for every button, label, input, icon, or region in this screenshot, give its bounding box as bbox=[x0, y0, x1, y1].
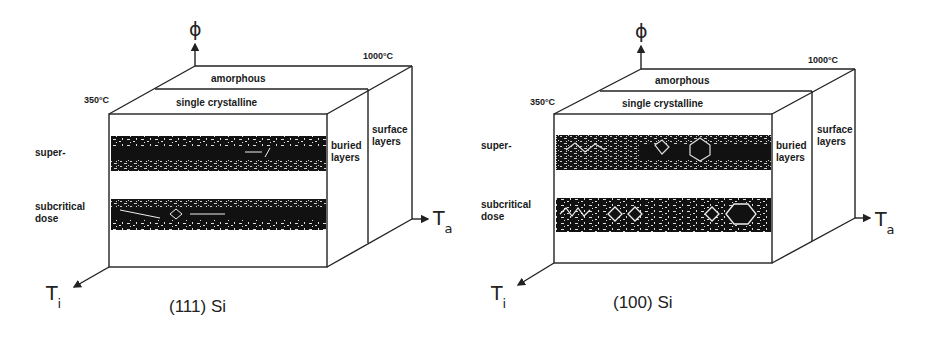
amorphous-label: amorphous bbox=[655, 75, 709, 87]
super-buried-layer bbox=[111, 147, 326, 160]
panel-111-layers bbox=[111, 136, 326, 230]
single-crystalline-label: single crystalline bbox=[176, 97, 257, 109]
surface-layers-label: surfacelayers bbox=[372, 124, 408, 148]
single-crystalline-label: single crystalline bbox=[622, 98, 703, 110]
ti-axis-arrow bbox=[518, 263, 554, 285]
super-label: super- bbox=[481, 140, 512, 152]
super-lower-band bbox=[111, 160, 326, 171]
buried-layers-label: buriedlayers bbox=[776, 140, 807, 164]
temp-high-label: 1000°C bbox=[363, 50, 393, 62]
ti-axis-label: Ti bbox=[46, 282, 61, 304]
temp-low-label: 350°C bbox=[530, 96, 555, 108]
subcritical-dose-label: subcriticaldose bbox=[481, 199, 531, 223]
temp-low-label: 350°C bbox=[84, 94, 109, 106]
ta-axis-label: Ta bbox=[433, 207, 453, 229]
super-label: super- bbox=[35, 147, 66, 159]
caption-100-si: (100) Si bbox=[613, 293, 673, 313]
amorphous-label: amorphous bbox=[211, 73, 265, 85]
super-upper-band bbox=[111, 136, 326, 147]
surface-layers-label: surfacelayers bbox=[817, 124, 853, 148]
subcritical-upper-band bbox=[111, 199, 326, 208]
ta-axis-label: Ta bbox=[875, 208, 895, 230]
subcritical-dose-label: subcriticaldose bbox=[35, 201, 85, 225]
phi-axis-label: ϕ bbox=[635, 20, 648, 42]
caption-111-si: (111) Si bbox=[169, 297, 226, 317]
panel-100-layers bbox=[556, 135, 771, 232]
ti-axis-label: Ti bbox=[491, 282, 506, 304]
diagram-canvas bbox=[0, 0, 933, 338]
temp-high-label: 1000°C bbox=[808, 54, 838, 66]
phi-axis-label: ϕ bbox=[189, 18, 202, 40]
buried-layers-label: buriedlayers bbox=[331, 140, 362, 164]
subcritical-lower-band bbox=[111, 220, 326, 230]
ti-axis-arrow bbox=[74, 267, 109, 287]
